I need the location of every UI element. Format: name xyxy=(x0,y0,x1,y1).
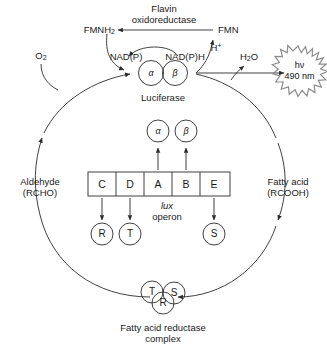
diagram-canvas: Flavin oxidoreductase FMNH2 FMN NAD(P) N… xyxy=(0,0,327,350)
cycle-arc-left-top xyxy=(44,74,130,133)
cycle-arc-bottom-right xyxy=(178,226,276,297)
cycle-arc-right-top xyxy=(196,74,276,138)
luciferase-label: Luciferase xyxy=(131,92,195,103)
gene-a-letter: A xyxy=(148,178,168,190)
oxygen-inlet-arrow xyxy=(41,64,58,90)
light-emission-label: hν 490 nm xyxy=(276,60,323,81)
fatty-acid-label: Fatty acid (RCOOH) xyxy=(255,176,321,198)
complex-r-letter: R xyxy=(155,297,171,308)
complex-t-letter: T xyxy=(144,286,160,297)
luciferase-beta-glyph: β xyxy=(167,68,183,78)
product-r-letter: R xyxy=(94,228,110,239)
product-s-letter: S xyxy=(206,228,222,239)
gene-c-letter: C xyxy=(92,178,112,190)
aldehyde-label: Aldehyde (RCHO) xyxy=(8,176,72,198)
gene-d-letter: D xyxy=(120,178,140,190)
fmn-label: FMN xyxy=(218,24,250,35)
nadp-label: NAD(P) xyxy=(100,51,152,62)
gene-b-letter: B xyxy=(176,178,196,190)
water-label: H2O xyxy=(233,51,265,64)
operon-name-label: lux operon xyxy=(136,200,198,222)
reductase-complex-caption: Fatty acid reductase complex xyxy=(83,322,243,344)
luciferase-alpha-glyph: α xyxy=(143,68,159,78)
fmnh2-label: FMNH2 xyxy=(69,24,115,37)
flavin-oxidoreductase-label: Flavin oxidoreductase xyxy=(118,3,210,25)
proton-label: H+ xyxy=(206,40,226,53)
gene-e-letter: E xyxy=(204,178,224,190)
oxygen-label: O2 xyxy=(28,50,54,63)
subunit-alpha-glyph: α xyxy=(150,126,166,136)
subunit-beta-glyph: β xyxy=(178,126,194,136)
product-t-letter: T xyxy=(122,228,138,239)
